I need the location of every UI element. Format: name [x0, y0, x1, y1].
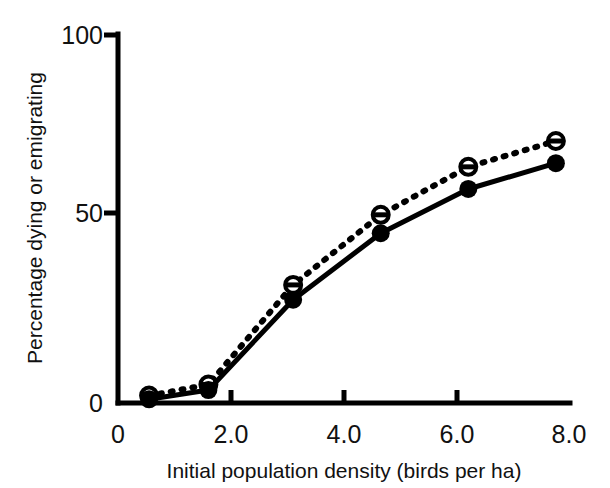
line-chart: 100 50 0 0 2.0 4.0 6.0 8.0 Initial popul…	[0, 0, 610, 488]
data-point-filled-circle	[140, 390, 158, 408]
y-axis-title: Percentage dying or emigrating	[23, 72, 46, 364]
y-tick-label-100: 100	[61, 21, 103, 49]
x-tick-label-0: 0	[111, 420, 125, 448]
data-point-filled-circle	[459, 180, 477, 198]
y-tick-label-50: 50	[75, 199, 103, 227]
y-tick-label-0: 0	[89, 389, 103, 417]
x-tick-label-8: 8.0	[552, 420, 587, 448]
data-point-filled-circle	[199, 381, 217, 399]
data-point-filled-circle	[372, 224, 390, 242]
x-tick-label-2: 2.0	[214, 420, 249, 448]
data-point-filled-circle	[284, 291, 302, 309]
x-tick-label-6: 6.0	[440, 420, 475, 448]
chart-figure: 100 50 0 0 2.0 4.0 6.0 8.0 Initial popul…	[0, 0, 610, 488]
data-point-filled-circle	[547, 154, 565, 172]
x-axis-title: Initial population density (birds per ha…	[167, 459, 522, 482]
x-tick-label-4: 4.0	[327, 420, 362, 448]
